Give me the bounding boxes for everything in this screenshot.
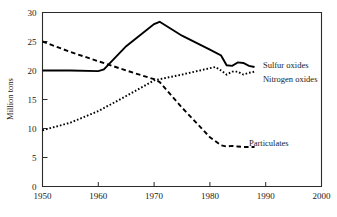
x-tick-label-1970: 1970	[145, 191, 164, 201]
x-tick-label-1990: 1990	[257, 191, 276, 201]
series-labels-group: Sulfur oxidesNitrogen oxidesParticulates	[249, 60, 317, 148]
y-tick-label-15: 15	[28, 95, 38, 105]
x-tick-label-1980: 1980	[201, 191, 220, 201]
chart-axes	[43, 13, 322, 187]
axis-frame	[43, 13, 322, 187]
emissions-line-chart: 195019601970198019902000 051015202530 Su…	[0, 0, 337, 217]
x-tick-label-1950: 1950	[34, 191, 53, 201]
y-tick-label-0: 0	[32, 182, 37, 192]
chart-canvas: 195019601970198019902000 051015202530 Su…	[0, 0, 337, 217]
x-axis-ticks: 195019601970198019902000	[34, 182, 332, 201]
data-series-group	[43, 22, 255, 147]
y-tick-label-5: 5	[32, 153, 37, 163]
series-label-nitrogen-oxides: Nitrogen oxides	[263, 74, 318, 84]
x-tick-label-1960: 1960	[89, 191, 108, 201]
y-axis-title: Million tons	[5, 78, 15, 120]
series-line-sulfur-oxides	[43, 22, 255, 71]
y-tick-label-10: 10	[28, 124, 38, 134]
series-line-nitrogen-oxides	[43, 67, 255, 130]
y-axis-ticks: 051015202530	[28, 8, 48, 192]
x-tick-label-2000: 2000	[313, 191, 332, 201]
y-tick-label-20: 20	[28, 66, 38, 76]
series-label-sulfur-oxides: Sulfur oxides	[263, 60, 309, 70]
y-tick-label-30: 30	[28, 8, 38, 18]
y-tick-label-25: 25	[28, 37, 38, 47]
series-label-particulates: Particulates	[249, 138, 289, 148]
